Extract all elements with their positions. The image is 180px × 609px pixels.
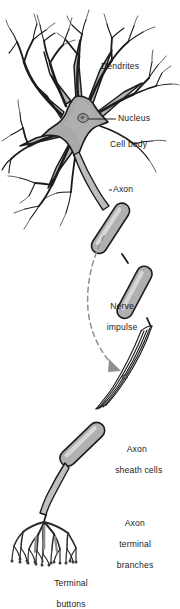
- label-axon-terminal-branches: Axon terminal branches: [102, 508, 158, 581]
- label-axon: Axon: [113, 184, 133, 194]
- neuron-diagram: .outline { fill: none; stroke: #1c1c1c; …: [0, 0, 180, 609]
- label-nerve-impulse-line1: Nerve: [110, 301, 134, 311]
- label-axon-sheath-line1: Axon: [127, 444, 147, 454]
- label-terminal-buttons: Terminal buttons: [38, 568, 94, 609]
- label-nucleus: Nucleus: [118, 113, 150, 123]
- label-axon-terminal-line2: terminal: [119, 539, 151, 549]
- label-terminal-buttons-line1: Terminal: [54, 578, 88, 588]
- label-axon-sheath-line2: sheath cells: [115, 465, 162, 475]
- label-nerve-impulse: Nerve impulse: [93, 291, 141, 343]
- label-dendrites: Dendrites: [101, 61, 139, 71]
- label-axon-terminal-line3: branches: [117, 560, 154, 570]
- label-axon-sheath-cells: Axon sheath cells: [117, 434, 162, 486]
- label-terminal-buttons-line2: buttons: [56, 599, 85, 609]
- label-axon-terminal-line1: Axon: [125, 518, 145, 528]
- nucleus-shape: [78, 114, 88, 123]
- label-cell-body: Cell body: [110, 139, 147, 149]
- label-nerve-impulse-line2: impulse: [107, 322, 138, 332]
